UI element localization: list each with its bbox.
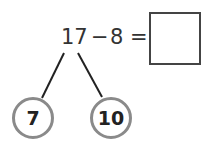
minus-sign: −: [91, 24, 109, 50]
subtraction-number-bond: 17 − 8 = 7 10: [0, 0, 210, 149]
minuend: 17: [61, 24, 88, 50]
bond-part-left: 7: [12, 97, 54, 139]
right-bond-line: [78, 53, 102, 97]
bond-part-right: 10: [90, 97, 132, 139]
answer-box[interactable]: [149, 12, 201, 65]
subtrahend: 8: [110, 24, 123, 50]
left-bond-line: [42, 53, 64, 98]
equals-sign: =: [130, 24, 148, 50]
